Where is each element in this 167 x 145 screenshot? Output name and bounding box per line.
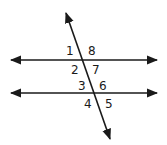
diagram-svg: 1 8 2 7 3 6 4 5 xyxy=(0,0,167,145)
angle-label-7: 7 xyxy=(92,63,100,77)
angle-label-6: 6 xyxy=(99,79,107,93)
angle-label-5: 5 xyxy=(105,97,113,111)
angle-label-3: 3 xyxy=(78,79,86,93)
angle-label-1: 1 xyxy=(66,44,74,58)
angle-label-4: 4 xyxy=(84,97,92,111)
diagram: 1 8 2 7 3 6 4 5 xyxy=(0,0,167,145)
angle-label-8: 8 xyxy=(88,44,96,58)
angle-label-2: 2 xyxy=(71,63,79,77)
